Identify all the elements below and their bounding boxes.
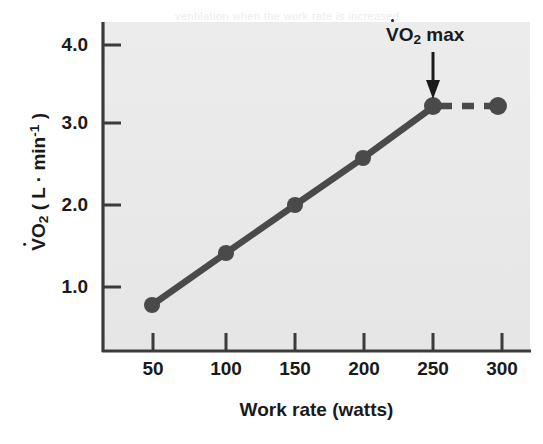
- x-tick-label-150: 150: [265, 358, 325, 380]
- y-axis-title-unit-open: ( L · min: [28, 137, 49, 216]
- vo2max-label-sub: 2: [413, 32, 421, 47]
- data-point-50w: [144, 297, 160, 313]
- vo2max-label-v: V: [386, 24, 399, 46]
- y-axis-title-o: O: [28, 223, 49, 238]
- y-axis-title: VO2 ( L · min-1 ): [27, 57, 51, 307]
- vo2max-annotation-label: VO2 max: [386, 24, 464, 47]
- series-markers: [144, 97, 507, 313]
- vo2max-label-o: O: [399, 24, 414, 45]
- x-tick-label-200: 200: [334, 358, 394, 380]
- y-axis-title-sub: 2: [36, 216, 51, 224]
- x-tick-label-100: 100: [196, 358, 256, 380]
- data-point-200w: [355, 150, 371, 166]
- y-axis-title-v: V: [28, 238, 50, 251]
- y-axis-title-sup: -1: [27, 125, 42, 137]
- vo2max-label-suffix: max: [421, 24, 464, 45]
- x-tick-marks: [153, 333, 502, 351]
- data-point-250w: [424, 97, 442, 115]
- x-tick-label-50: 50: [123, 358, 183, 380]
- x-tick-label-250: 250: [403, 358, 463, 380]
- data-point-100w: [218, 245, 234, 261]
- vo2-work-rate-figure: ventilation when the work rate is increa…: [0, 0, 543, 444]
- x-tick-label-300: 300: [472, 358, 532, 380]
- y-tick-marks: [103, 45, 121, 287]
- data-point-300w: [489, 97, 507, 115]
- vo2max-arrow-icon: [426, 52, 440, 99]
- y-tick-label-4: 4.0: [32, 34, 88, 56]
- x-axis-title: Work rate (watts): [103, 399, 530, 421]
- data-point-150w: [287, 197, 303, 213]
- y-axis-title-unit-close: ): [28, 113, 49, 125]
